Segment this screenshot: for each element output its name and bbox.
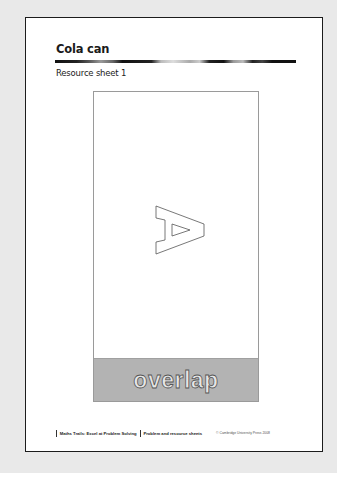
rotated-letter-a-icon bbox=[154, 204, 206, 256]
footer-copyright: © Cambridge University Press 2008 bbox=[216, 431, 270, 435]
overlap-band: overlap bbox=[94, 358, 258, 401]
page-footer: Maths Trails: Excel at Problem Solving P… bbox=[53, 428, 303, 438]
resource-sheet-page: Cola can Resource sheet 1 overlap Maths … bbox=[25, 17, 323, 452]
title-underline-stripe bbox=[55, 60, 296, 63]
page-title: Cola can bbox=[56, 42, 109, 56]
footer-book-title: Maths Trails: Excel at Problem Solving bbox=[60, 431, 137, 436]
footer-separator bbox=[140, 430, 141, 437]
overlap-label: overlap bbox=[133, 367, 218, 394]
footer-separator bbox=[56, 430, 57, 437]
cola-can-net-rectangle: overlap bbox=[93, 91, 259, 402]
page-subtitle: Resource sheet 1 bbox=[56, 68, 126, 78]
footer-section: Problem and resource sheets bbox=[143, 431, 202, 436]
